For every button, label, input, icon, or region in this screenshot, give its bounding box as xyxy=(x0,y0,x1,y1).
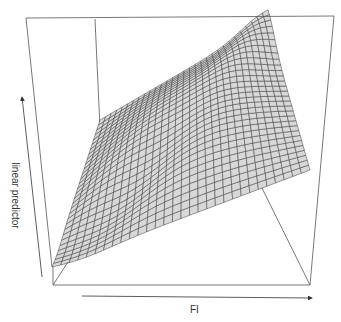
surface-plot xyxy=(0,0,341,322)
z-axis-arrow xyxy=(22,97,42,277)
z-axis-label: linear predictor xyxy=(10,151,21,241)
x-axis-label: FI xyxy=(190,304,199,315)
surface-mesh xyxy=(52,10,310,267)
x-axis-arrow xyxy=(82,296,312,298)
